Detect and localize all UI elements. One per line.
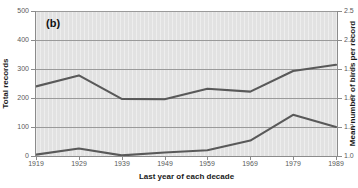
right-tick-label: 1.3: [344, 123, 354, 131]
left-tick-label: 500: [17, 7, 29, 15]
right-tick-mark: [338, 127, 342, 128]
x-tick-label: 1959: [192, 160, 222, 168]
x-tick-label: 1919: [21, 160, 51, 168]
data-series-line-1: [36, 115, 336, 156]
left-tick-label: 200: [17, 94, 29, 102]
x-tick-label: 1939: [107, 160, 137, 168]
right-tick-mark: [338, 11, 342, 12]
right-tick-label: 1.9: [344, 65, 354, 73]
right-tick-label: 2.5: [344, 7, 354, 15]
panel-label: (b): [46, 17, 60, 29]
chart-figure: Total records Mean number of birds per r…: [0, 0, 358, 188]
plot-svg: [36, 11, 337, 156]
x-axis-title: Last year of each decade: [36, 172, 337, 181]
right-axis-spine: [337, 11, 338, 157]
left-axis-spine: [35, 11, 36, 157]
left-tick-mark: [31, 11, 35, 12]
left-tick-mark: [31, 98, 35, 99]
right-tick-label: 2.2: [344, 36, 354, 44]
x-tick-label: 1949: [150, 160, 180, 168]
left-tick-mark: [31, 127, 35, 128]
plot-area: [36, 11, 337, 156]
right-tick-mark: [338, 156, 342, 157]
left-tick-label: 400: [17, 36, 29, 44]
left-tick-label: 100: [17, 123, 29, 131]
right-tick-label: 1.0: [344, 152, 354, 160]
left-tick-label: 0: [25, 152, 29, 160]
right-tick-mark: [338, 98, 342, 99]
left-axis-title-text: Total records: [1, 58, 10, 108]
left-tick-mark: [31, 156, 35, 157]
x-tick-label: 1969: [235, 160, 265, 168]
right-tick-mark: [338, 69, 342, 70]
x-tick-label: 1979: [278, 160, 308, 168]
left-tick-mark: [31, 40, 35, 41]
right-axis-title: Mean number of birds per record: [347, 11, 358, 156]
x-tick-label: 1929: [64, 160, 94, 168]
right-tick-label: 1.6: [344, 94, 354, 102]
left-tick-mark: [31, 69, 35, 70]
x-tick-label: 1989: [321, 160, 351, 168]
left-tick-label: 300: [17, 65, 29, 73]
right-tick-mark: [338, 40, 342, 41]
left-axis-title: Total records: [0, 11, 10, 156]
